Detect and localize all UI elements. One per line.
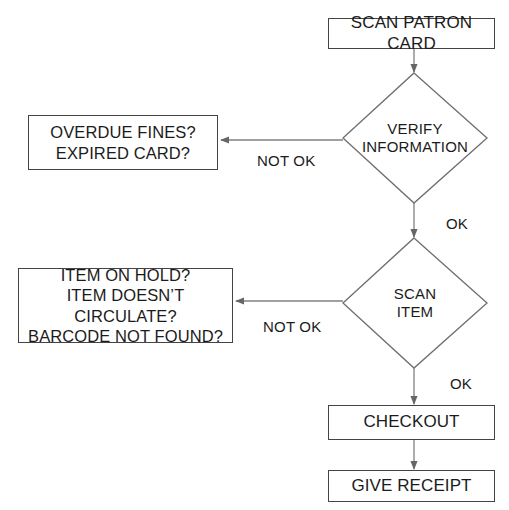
flowchart-canvas: SCAN PATRON CARD VERIFY INFORMATION OVER… (0, 0, 509, 510)
edge-label-verify-not-ok: NOT OK (257, 152, 315, 169)
node-item-problems-line1: ITEM ON HOLD? (19, 265, 232, 285)
edge-label-verify-ok: OK (446, 215, 468, 232)
node-give-receipt[interactable]: GIVE RECEIPT (328, 470, 495, 502)
node-item-problems[interactable]: ITEM ON HOLD? ITEM DOESN’T CIRCULATE? BA… (18, 268, 233, 343)
node-checkout[interactable]: CHECKOUT (328, 405, 495, 440)
edge-label-scan-item-ok: OK (450, 375, 472, 392)
edge-label-scan-item-not-ok: NOT OK (263, 318, 321, 335)
node-item-problems-line2: ITEM DOESN’T CIRCULATE? (19, 285, 232, 325)
node-scan-item-label-line1: SCAN (343, 285, 487, 303)
node-patron-problems-line1: OVERDUE FINES? (29, 122, 217, 142)
node-item-problems-line3: BARCODE NOT FOUND? (19, 326, 232, 346)
node-scan-item[interactable]: SCAN ITEM (343, 238, 487, 368)
node-scan-patron-card-label: SCAN PATRON CARD (329, 13, 494, 54)
node-patron-problems-line2: EXPIRED CARD? (29, 143, 217, 163)
node-scan-item-label-line2: ITEM (343, 303, 487, 321)
node-verify-information-label-line1: VERIFY (343, 120, 487, 138)
node-give-receipt-label: GIVE RECEIPT (329, 476, 494, 497)
node-patron-problems[interactable]: OVERDUE FINES? EXPIRED CARD? (28, 115, 218, 170)
node-verify-information[interactable]: VERIFY INFORMATION (343, 73, 487, 203)
node-scan-patron-card[interactable]: SCAN PATRON CARD (328, 18, 495, 49)
node-checkout-label: CHECKOUT (329, 412, 494, 433)
node-verify-information-label-line2: INFORMATION (343, 138, 487, 156)
